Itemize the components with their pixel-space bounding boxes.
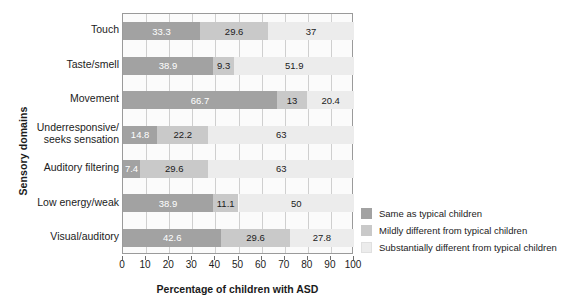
stacked-bar-chart: Sensory domains TouchTaste/smellMovement… [0, 0, 583, 303]
bar-segment: 42.6 [123, 229, 221, 247]
bar-segment: 51.9 [234, 57, 354, 75]
bar-segment: 66.7 [123, 91, 277, 109]
x-tick-label: 0 [119, 259, 125, 270]
bar-row: 66.71320.4 [123, 91, 352, 109]
bar-value-label: 33.3 [152, 26, 171, 37]
bar-value-label: 29.6 [246, 232, 265, 243]
bar-value-label: 38.9 [159, 60, 178, 71]
x-axis-title: Percentage of children with ASD [122, 283, 353, 295]
category-axis: TouchTaste/smellMovementUnderresponsive/… [18, 13, 119, 254]
bar-value-label: 7.4 [125, 163, 138, 174]
x-tick-label: 50 [232, 259, 243, 270]
legend-swatch [361, 242, 372, 253]
bar-value-label: 22.2 [174, 129, 193, 140]
x-tick-label: 60 [255, 259, 266, 270]
bar-segment: 13 [277, 91, 307, 109]
x-tick-label: 20 [163, 259, 174, 270]
legend-swatch [361, 225, 372, 236]
bar-row: 7.429.663 [123, 160, 352, 178]
bar-segment: 27.8 [290, 229, 354, 247]
legend-label: Mildly different from typical children [379, 225, 527, 236]
bar-segment: 29.6 [140, 160, 208, 178]
legend-item: Mildly different from typical children [361, 222, 557, 239]
bar-value-label: 20.4 [321, 95, 340, 106]
bar-segment: 20.4 [307, 91, 354, 109]
bar-segment: 9.3 [213, 57, 234, 75]
legend-item: Same as typical children [361, 205, 557, 222]
bar-row: 42.629.627.8 [123, 229, 352, 247]
bar-segment: 37 [268, 22, 353, 40]
category-label: Visual/auditory [18, 231, 119, 243]
x-tick-label: 10 [140, 259, 151, 270]
x-tick-label: 90 [324, 259, 335, 270]
bar-segment: 22.2 [157, 126, 208, 144]
x-tick-label: 40 [209, 259, 220, 270]
bar-value-label: 27.8 [313, 232, 332, 243]
bar-segment: 29.6 [200, 22, 268, 40]
bar-value-label: 66.7 [191, 95, 210, 106]
legend-label: Substantially different from typical chi… [379, 242, 557, 253]
bar-value-label: 29.6 [225, 26, 244, 37]
x-tick-label: 100 [345, 259, 362, 270]
legend-swatch [361, 208, 372, 219]
legend-label: Same as typical children [379, 208, 482, 219]
bar-segment: 38.9 [123, 57, 213, 75]
bar-value-label: 51.9 [285, 60, 304, 71]
bar-value-label: 63 [276, 163, 287, 174]
bar-segment: 7.4 [123, 160, 140, 178]
x-axis-ticks: 0102030405060708090100 [122, 256, 353, 269]
bar-segment: 29.6 [221, 229, 289, 247]
category-label: Movement [18, 93, 119, 105]
x-tick-label: 30 [186, 259, 197, 270]
bar-row: 33.329.637 [123, 22, 352, 40]
bar-segment: 63 [208, 160, 354, 178]
bar-value-label: 42.6 [163, 232, 182, 243]
bar-value-label: 9.3 [217, 60, 230, 71]
plot-area: 33.329.63738.99.351.966.71320.414.822.26… [122, 13, 353, 254]
bar-segment: 14.8 [123, 126, 157, 144]
bar-segment: 63 [208, 126, 354, 144]
bar-value-label: 29.6 [165, 163, 184, 174]
legend-item: Substantially different from typical chi… [361, 239, 557, 256]
bar-value-label: 13 [287, 95, 298, 106]
bar-value-label: 11.1 [217, 198, 235, 209]
bar-value-label: 63 [276, 129, 287, 140]
bar-row: 38.99.351.9 [123, 57, 352, 75]
chart-legend: Same as typical childrenMildly different… [361, 205, 557, 256]
category-label: Underresponsive/seeks sensation [18, 122, 119, 145]
x-tick-label: 80 [301, 259, 312, 270]
x-tick-label: 70 [278, 259, 289, 270]
bar-segment: 38.9 [123, 194, 213, 212]
category-label: Auditory filtering [18, 162, 119, 174]
category-label: Touch [18, 24, 119, 36]
bar-segment: 33.3 [123, 22, 200, 40]
bar-segment: 11.1 [213, 194, 239, 212]
bar-value-label: 37 [306, 26, 317, 37]
bar-segment: 50 [239, 194, 355, 212]
bar-value-label: 14.8 [131, 129, 150, 140]
category-label: Taste/smell [18, 59, 119, 71]
bar-value-label: 38.9 [159, 198, 178, 209]
bar-row: 38.911.150 [123, 194, 352, 212]
bar-row: 14.822.263 [123, 126, 352, 144]
bar-value-label: 50 [291, 198, 302, 209]
category-label: Low energy/weak [18, 197, 119, 209]
